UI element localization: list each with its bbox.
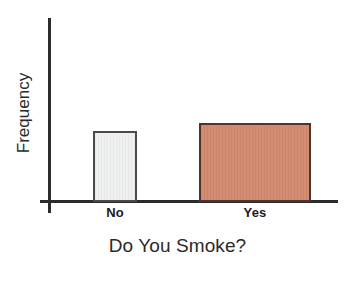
plot-area [0, 0, 355, 202]
bar-chart: No Yes Do You Smoke? Frequency [0, 0, 355, 283]
y-axis-title: Frequency [14, 53, 34, 173]
x-tick-label-no: No [87, 205, 143, 220]
x-axis-title: Do You Smoke? [0, 235, 355, 257]
bar-no [93, 131, 137, 202]
x-tick-label-yes: Yes [223, 205, 287, 220]
bar-yes [199, 123, 311, 202]
